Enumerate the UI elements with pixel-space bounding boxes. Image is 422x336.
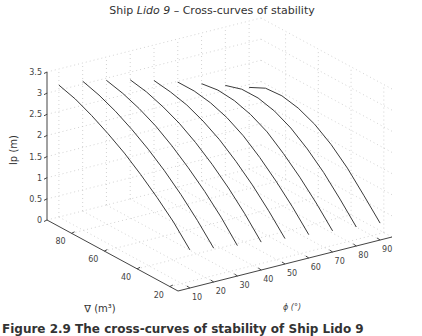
x-tick [258, 268, 261, 270]
grid-line [47, 18, 261, 72]
y-tick [170, 285, 173, 287]
y-tick [72, 232, 75, 234]
x-tick-label: 50 [287, 269, 297, 278]
grid-line [225, 175, 356, 246]
x-tick-label: 80 [358, 251, 368, 260]
grid-line [47, 124, 261, 178]
x-tick [330, 250, 333, 252]
y-tick-label: 60 [88, 255, 98, 264]
x-tick-label: 60 [311, 263, 321, 272]
stability-curve-phi-30 [106, 80, 237, 245]
x-tick-label: 70 [335, 257, 345, 266]
grid-line [261, 60, 392, 131]
x-tick [234, 274, 237, 276]
z-tick-label: 0 [37, 216, 42, 225]
y-tick [104, 250, 107, 252]
z-axis-label: lp (m) [8, 135, 19, 165]
x-axis-label: ϕ (°) [283, 303, 301, 312]
grid-line [261, 39, 392, 110]
z-tick-label: 0.5 [29, 195, 42, 204]
grid-line [249, 169, 380, 240]
x-tick [211, 280, 214, 282]
grid-line [261, 145, 392, 216]
y-axis-label: ∇ (m³) [83, 303, 116, 314]
grid-line [178, 187, 309, 258]
figure-caption: Figure 2.9 The cross-curves of stability… [2, 322, 364, 336]
grid-line [261, 124, 392, 195]
x-tick [282, 262, 285, 264]
x-tick-label: 40 [263, 275, 273, 284]
x-tick-label: 30 [239, 281, 249, 290]
x-tick-label: 90 [382, 245, 392, 254]
z-tick [44, 220, 47, 222]
x-tick-label: 10 [192, 293, 202, 302]
grid-line [106, 205, 237, 276]
z-tick-label: 1 [37, 174, 42, 183]
y-tick [137, 267, 140, 269]
z-tick-label: 3.5 [29, 68, 42, 77]
x-tick [353, 244, 356, 246]
chart-title: Ship Lido 9 – Cross-curves of stability [109, 4, 315, 17]
grid-line [137, 215, 351, 269]
x-tick [306, 256, 309, 258]
grid-line [83, 211, 214, 282]
grid-line [154, 193, 285, 264]
grid-line [261, 18, 392, 89]
y-tick-label: 20 [154, 291, 164, 300]
grid-line [130, 199, 261, 270]
y-axis [47, 220, 178, 291]
grid-line [47, 39, 261, 93]
stability-curve-phi-10 [59, 85, 190, 250]
stability-curve-phi-20 [83, 81, 214, 248]
stability-curve-phi-90 [249, 87, 380, 223]
z-tick-label: 2.5 [29, 110, 42, 119]
x-tick-label: 20 [216, 287, 226, 296]
y-tick-label: 40 [121, 273, 131, 282]
y-tick-label: 80 [55, 237, 65, 246]
z-tick-label: 2 [37, 131, 42, 140]
z-tick-label: 1.5 [29, 153, 42, 162]
x-tick [377, 238, 380, 240]
z-tick-label: 3 [37, 89, 42, 98]
x-tick [187, 286, 190, 288]
